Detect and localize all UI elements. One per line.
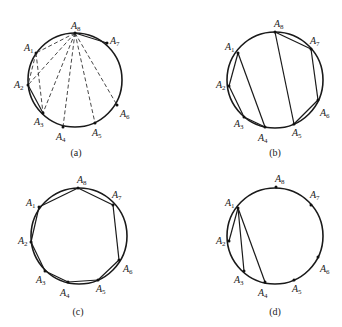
circle-chord-figure: A8A7A1A2A3A4A5A6(a) A8A7A1A2A3A4A5A6(b) … [0,0,342,327]
point-label: A1 [224,41,235,54]
point-label: A5 [291,127,302,140]
point-label: A4 [257,287,268,300]
point-A6 [317,256,320,259]
solid-chord-A8-A7 [275,32,311,49]
point-A4 [62,126,65,129]
point-A7 [112,204,115,207]
point-label-subscript: 3 [240,279,244,287]
point-label: A2 [13,79,24,92]
solid-chord-A5-A6 [98,260,119,280]
point-label: A8 [273,18,284,31]
point-label-subscript: 3 [42,279,46,287]
point-A1 [35,52,38,55]
point-A8 [274,31,277,34]
point-label: A5 [95,283,106,296]
point-label: A8 [70,20,81,33]
point-A1 [38,206,41,209]
point-label-subscript: 3 [240,123,244,131]
point-label-subscript: 1 [32,202,36,210]
solid-chord-A8-A1 [39,188,78,207]
panel-caption: (a) [70,147,81,159]
point-A2 [30,241,33,244]
point-A5 [97,279,100,282]
point-label: A4 [59,287,70,300]
point-A2 [228,240,231,243]
panel-d: A8A7A1A2A3A4A5A6(d) [215,173,330,318]
point-label: A3 [233,118,244,131]
panel-b: A8A7A1A2A3A4A5A6(b) [215,18,330,159]
point-label-subscript: 6 [129,268,133,276]
point-label-subscript: 4 [264,292,268,300]
point-label-subscript: 2 [20,84,24,92]
point-A3 [42,112,45,115]
point-A2 [27,84,30,87]
point-label: A8 [274,173,285,186]
solid-chord-A3-A4 [45,271,68,282]
point-A5 [293,279,296,282]
point-label: A6 [119,108,130,121]
point-A7 [310,204,313,207]
dashed-chord-A1-A3 [36,53,43,113]
point-label: A3 [233,274,244,287]
point-label: A2 [215,235,226,248]
solid-chord-A6-A5 [294,100,318,124]
point-A6 [317,99,320,102]
point-label: A1 [25,197,36,210]
point-label-subscript: 8 [77,25,81,33]
panel-a: A8A7A1A2A3A4A5A6(a) [13,20,130,159]
point-label: A8 [76,174,87,187]
point-label-subscript: 5 [298,288,302,296]
solid-chord-A1-A2 [229,53,238,86]
solid-chord-A2-A3 [31,242,45,271]
point-A5 [293,123,296,126]
point-label: A4 [257,132,268,145]
point-label: A4 [55,131,66,144]
point-label: A2 [17,235,28,248]
point-label-subscript: 7 [118,194,122,202]
point-A4 [264,281,267,284]
point-label: A6 [319,107,330,120]
point-A8 [77,187,80,190]
point-A6 [116,104,119,107]
dashed-chord-A8-A1 [36,33,75,53]
point-label-subscript: 5 [98,132,102,140]
point-label: A6 [122,263,133,276]
point-A3 [44,270,47,273]
point-A2 [228,85,231,88]
point-A3 [243,270,246,273]
solid-chord-A8-A5 [275,32,294,124]
panel-caption: (b) [269,147,281,159]
solid-chord-A2-A3 [28,85,43,113]
point-label: A7 [309,189,320,202]
point-A7 [106,42,109,45]
point-label: A5 [291,283,302,296]
circle-b [227,32,323,128]
point-label-subscript: 2 [222,84,226,92]
point-label-subscript: 4 [62,136,66,144]
point-A1 [237,207,240,210]
point-label-subscript: 6 [126,113,130,121]
point-label-subscript: 1 [231,202,235,210]
point-A6 [118,259,121,262]
point-label-subscript: 4 [264,137,268,145]
point-label: A7 [309,35,320,48]
point-A4 [264,126,267,129]
point-A4 [67,281,70,284]
point-label-subscript: 2 [222,240,226,248]
panel-caption: (d) [269,306,281,318]
point-label: A5 [91,127,102,140]
point-label-subscript: 7 [316,194,320,202]
point-label: A1 [23,42,34,55]
point-label: A6 [319,263,330,276]
solid-chord-A6-A7 [113,205,119,260]
point-label-subscript: 7 [116,40,120,48]
point-label-subscript: 4 [66,292,70,300]
point-A5 [94,122,97,125]
panel-caption: (c) [72,306,83,318]
point-label: A3 [35,274,46,287]
circle-d [227,188,323,284]
point-label-subscript: 2 [24,240,28,248]
point-A3 [243,116,246,119]
point-label-subscript: 8 [280,23,284,31]
point-label: A3 [33,116,44,129]
